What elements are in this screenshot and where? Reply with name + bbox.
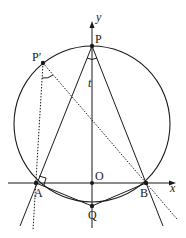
label-P-prime: P′ <box>32 50 42 64</box>
dotted-line-P-prime-A <box>33 63 43 230</box>
angle-arc-P-prime <box>42 75 53 78</box>
line-PB <box>92 46 163 226</box>
label-P: P <box>95 32 102 46</box>
x-axis-label: x <box>169 181 176 195</box>
point-O <box>90 181 94 185</box>
point-P-prime <box>41 61 45 65</box>
dotted-line-P-prime-B <box>43 63 177 219</box>
segment-AQ <box>36 183 92 206</box>
label-O: O <box>95 169 104 183</box>
label-Q: Q <box>88 208 97 222</box>
geometry-diagram: y x P P′ t O A B Q <box>0 0 186 238</box>
point-P <box>90 44 94 48</box>
point-A <box>34 181 38 185</box>
label-t: t <box>88 76 92 90</box>
line-PA <box>20 46 92 226</box>
label-A: A <box>34 186 43 200</box>
label-B: B <box>140 186 148 200</box>
y-axis-arrow-icon <box>90 21 95 28</box>
y-axis-label: y <box>95 10 102 24</box>
point-B <box>144 181 148 185</box>
segment-QB <box>92 183 146 206</box>
